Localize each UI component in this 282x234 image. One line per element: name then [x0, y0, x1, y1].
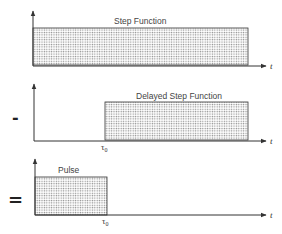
- t-axis-label: t: [270, 61, 273, 71]
- t-axis-label: t: [270, 210, 273, 220]
- step-function-diagram: Step Function t - Delayed Step Function …: [0, 0, 282, 234]
- t-axis-label: t: [270, 136, 273, 146]
- panel-title: Delayed Step Function: [136, 91, 222, 101]
- pulse-fill: [35, 177, 107, 215]
- tau-zero-label: τ0: [101, 142, 107, 153]
- tau-zero-label: τ0: [102, 216, 108, 227]
- panel-title: Step Function: [114, 16, 167, 26]
- panel-title: Pulse: [58, 165, 80, 175]
- panel-pulse: = Pulse t τ0: [8, 159, 273, 227]
- minus-operator: -: [12, 108, 19, 127]
- panel-delayed-step-function: - Delayed Step Function t τ0: [12, 84, 273, 153]
- equals-operator: =: [8, 189, 23, 210]
- panel-step-function: Step Function t: [33, 11, 273, 71]
- step-fill: [33, 28, 248, 65]
- delayed-step-fill: [105, 102, 248, 140]
